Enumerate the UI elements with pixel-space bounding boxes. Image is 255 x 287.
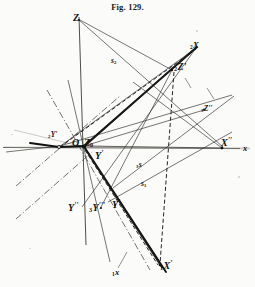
label-x-double-prime: X'' — [221, 137, 232, 148]
label-y-lower-c: Y' — [112, 199, 120, 210]
label-z-double-prime: 3Z'' — [201, 105, 212, 113]
label-x2-upper: 2X — [190, 41, 199, 50]
figure-canvas: Fig. 129. — [0, 0, 255, 287]
scan-speck — [29, 248, 31, 249]
label-x-axis-right: x — [243, 144, 247, 153]
label-z-top: Z — [73, 13, 79, 23]
label-s1: s1 — [141, 180, 146, 188]
label-s3: 3s — [136, 161, 142, 169]
scan-speck — [11, 134, 13, 135]
chain-dot-lines — [16, 90, 150, 270]
scan-speck — [196, 30, 198, 32]
label-y-prime-left: 2Y' — [48, 131, 57, 139]
scan-speck — [238, 176, 240, 178]
label-y-center: Y' — [95, 150, 103, 161]
label-origin-z: Z0 — [84, 138, 93, 148]
dashed-lines — [60, 49, 196, 265]
label-x-prime: 1X' — [160, 260, 172, 272]
primary-axes-thick — [30, 47, 197, 272]
geometry-diagram — [0, 0, 255, 287]
label-y-lower-b: 3Y''' — [89, 202, 105, 214]
construction-rays-thin — [6, 20, 234, 262]
label-origin-o: O — [72, 138, 79, 148]
label-y-lower-a: Y'' — [68, 202, 78, 213]
label-z-prime: 2Z' — [174, 62, 186, 72]
label-s2: s2 — [111, 57, 116, 65]
label-x1-lower: 1x — [112, 268, 119, 277]
